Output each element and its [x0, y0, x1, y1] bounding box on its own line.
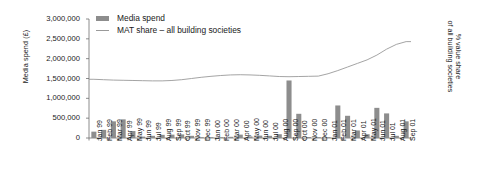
y-axis-tick-label: 1,500,000 [22, 75, 80, 83]
x-axis-tick-labels: Jan 99Feb 99Mar 99Apr 99May 99Jun 99Jul … [89, 140, 411, 184]
y-axis-tick-label: 0 [22, 134, 80, 142]
x-axis-tick-label: Feb 00 [223, 119, 230, 141]
x-axis-tick-label: Sep 99 [175, 119, 182, 141]
x-axis-tick-label: May 01 [370, 118, 377, 141]
x-axis-tick-label: Sep 01 [409, 119, 416, 141]
x-axis-tick-label: Jan 01 [331, 120, 338, 141]
x-axis-tick-label: Apr 01 [360, 120, 367, 141]
x-axis-tick-label: Mar 01 [350, 119, 357, 141]
y-axis-tick-label: 2,000,000 [22, 55, 80, 63]
legend-item-mat-share: MAT share – all building societies [96, 25, 241, 37]
x-axis-tick-label: Aug 01 [399, 119, 406, 141]
chart-container: Media spend (£) 0500,0001,000,0001,500,0… [0, 0, 480, 184]
line-swatch-icon [96, 28, 109, 33]
x-axis-tick-label: Dec 00 [321, 119, 328, 141]
x-axis-tick-label: May 99 [136, 118, 143, 141]
x-axis-tick-label: Jun 00 [262, 120, 269, 141]
x-axis-tick-label: Aug 00 [282, 119, 289, 141]
x-axis-tick-label: Nov 00 [311, 119, 318, 141]
x-axis-tick-label: Jul 00 [272, 122, 279, 141]
x-axis-tick-label: Jun 01 [379, 120, 386, 141]
y-axis-tick-labels: 0500,0001,000,0001,500,0002,000,0002,500… [22, 0, 80, 184]
line-series [89, 42, 411, 81]
legend-label-mat-share: MAT share – all building societies [117, 25, 241, 37]
x-axis-tick-label: Apr 00 [243, 120, 250, 141]
secondary-y-axis-title-line-1: % value share [454, 1, 462, 111]
bar-swatch-icon [96, 16, 109, 21]
x-axis-tick-label: Mar 99 [116, 119, 123, 141]
x-axis-tick-label: Oct 00 [301, 120, 308, 141]
x-axis-tick-label: Apr 99 [126, 120, 133, 141]
x-axis-tick-label: Jul 01 [389, 122, 396, 141]
secondary-y-axis-title-line-2: of all building societies [446, 1, 454, 111]
x-axis-tick-label: Jul 99 [155, 122, 162, 141]
x-axis-tick-label: Feb 99 [106, 119, 113, 141]
secondary-y-axis-title: % value share of all building societies [446, 1, 463, 111]
y-axis-tick-label: 500,000 [22, 114, 80, 122]
x-axis-tick-label: Aug 99 [165, 119, 172, 141]
x-axis-tick-label: Mar 00 [233, 119, 240, 141]
x-axis-tick-label: Feb 01 [340, 119, 347, 141]
chart-legend: Media spend MAT share – all building soc… [96, 13, 241, 36]
legend-label-media-spend: Media spend [117, 13, 165, 25]
x-axis-tick-label: Jun 99 [145, 120, 152, 141]
x-axis-tick-label: Dec 99 [204, 119, 211, 141]
x-axis-tick-label: Jan 99 [96, 120, 103, 141]
x-axis-tick-label: May 00 [253, 118, 260, 141]
y-axis-tick-label: 1,000,000 [22, 94, 80, 102]
y-axis-tick-label: 3,000,000 [22, 15, 80, 23]
y-axis-tick-label: 2,500,000 [22, 35, 80, 43]
x-axis-tick-label: Nov 99 [194, 119, 201, 141]
x-axis-tick-label: Sep 00 [292, 119, 299, 141]
legend-item-media-spend: Media spend [96, 13, 241, 25]
mat-share-line [89, 42, 411, 81]
x-axis-tick-label: Jan 00 [214, 120, 221, 141]
x-axis-tick-label: Oct 99 [184, 120, 191, 141]
